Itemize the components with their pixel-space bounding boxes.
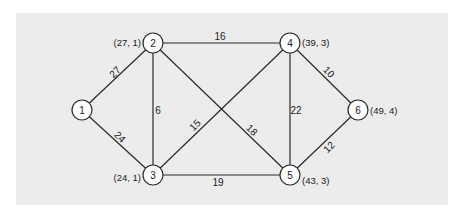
edge-weight-4-5: 22 <box>290 105 302 116</box>
node-label: 4 <box>287 38 293 49</box>
node-4: 4 <box>280 33 300 53</box>
graph-canvas: 2724616181519221012 123456 (27, 1)(24, 1… <box>0 0 468 215</box>
edge-weight-2-4: 16 <box>214 31 226 42</box>
edge-weight-3-5: 19 <box>212 177 224 188</box>
node-label: 3 <box>150 170 156 181</box>
node-label: 6 <box>355 105 361 116</box>
node-coordinate-6: (49, 4) <box>370 105 397 116</box>
node-label: 2 <box>150 38 156 49</box>
edge-weight-1-3: 24 <box>112 129 128 145</box>
edge-weight-4-6: 10 <box>321 64 337 80</box>
nodes-layer: 123456 <box>72 33 368 185</box>
node-6: 6 <box>348 100 368 120</box>
node-label: 5 <box>287 170 293 181</box>
edges-layer <box>82 43 358 175</box>
node-coordinate-2: (27, 1) <box>114 37 141 48</box>
edge-weight-3-4: 15 <box>187 117 203 133</box>
node-coordinate-5: (43, 3) <box>302 175 329 186</box>
edge-5-6 <box>290 110 358 175</box>
edge-weight-5-6: 12 <box>321 139 337 155</box>
node-1: 1 <box>72 100 92 120</box>
node-coordinate-4: (39, 3) <box>302 37 329 48</box>
edge-weight-1-2: 27 <box>107 64 123 80</box>
edge-weight-2-3: 6 <box>155 105 161 116</box>
edge-1-3 <box>82 110 153 175</box>
node-coordinate-3: (24, 1) <box>114 172 141 183</box>
node-label: 1 <box>79 105 85 116</box>
node-5: 5 <box>280 165 300 185</box>
node-2: 2 <box>143 33 163 53</box>
edge-4-6 <box>290 43 358 110</box>
node-3: 3 <box>143 165 163 185</box>
edge-weight-2-5: 18 <box>244 122 260 138</box>
